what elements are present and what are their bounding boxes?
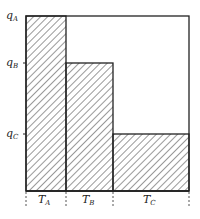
bar-a [26, 16, 66, 191]
label-ta: TA [38, 193, 50, 207]
label-tb: TB [82, 193, 95, 207]
bar-b [66, 63, 113, 191]
inventory-diagram: qA qB qC TA TB TC [0, 0, 200, 219]
label-qb: qB [6, 56, 18, 70]
label-qc: qC [6, 127, 19, 141]
label-tc: TC [143, 193, 156, 207]
bar-c [113, 134, 189, 191]
label-qa: qA [6, 9, 18, 23]
